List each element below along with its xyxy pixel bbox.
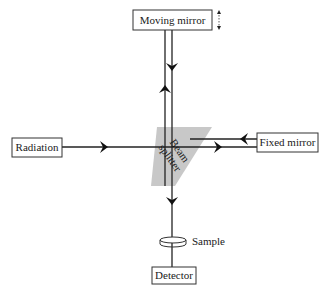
moving-mirror-box: Moving mirror bbox=[133, 10, 212, 30]
interferometer-diagram: Beam splitter Moving mirror Radiation Fi… bbox=[0, 0, 330, 301]
svg-text:Moving mirror: Moving mirror bbox=[140, 14, 206, 26]
double-arrow-vertical-icon bbox=[217, 10, 221, 30]
svg-text:Fixed mirror: Fixed mirror bbox=[260, 136, 316, 148]
svg-text:Detector: Detector bbox=[155, 269, 193, 281]
fixed-mirror-box: Fixed mirror bbox=[257, 133, 318, 152]
detector-box: Detector bbox=[152, 267, 196, 284]
sample-cell-icon bbox=[160, 237, 186, 247]
sample-label: Sample bbox=[192, 235, 225, 247]
svg-text:Radiation: Radiation bbox=[16, 141, 59, 153]
radiation-box: Radiation bbox=[12, 138, 62, 157]
